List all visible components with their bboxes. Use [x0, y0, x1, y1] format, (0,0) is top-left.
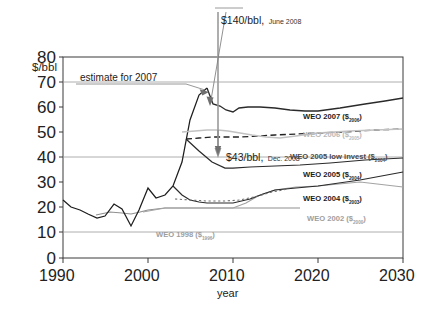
annotation-spike-43-value: $43/bbl,	[226, 151, 263, 163]
series-label-weo-2005-low-invest: WEO 2005 low invest ($2004)	[290, 153, 388, 163]
x-tick-2000: 2000	[124, 268, 160, 284]
series-label-weo-2002-text: WEO 2002 ($	[307, 214, 353, 223]
annotation-estimate-2007: estimate for 2007	[80, 73, 157, 83]
y-tick-60: 60	[30, 99, 56, 116]
series-label-weo-2002-sub: 2000	[353, 220, 363, 225]
series-label-weo-1998-sub: 1996	[202, 236, 212, 241]
series-label-weo-2005-end: )	[359, 170, 362, 179]
series-label-weo-2006-sub: 2005	[349, 136, 359, 141]
x-tick-2030: 2030	[379, 268, 415, 284]
x-tick-2020: 2020	[294, 268, 330, 284]
series-label-weo-2002-end: )	[363, 214, 366, 223]
y-tick-30: 30	[30, 174, 56, 191]
y-tick-0: 0	[30, 250, 56, 267]
series-label-weo-2005-low-invest-text: WEO 2005 low invest ($	[290, 152, 375, 161]
series-label-weo-2006-text: WEO 2006 ($	[303, 130, 349, 139]
annotation-spike-140-date: June 2008	[269, 18, 302, 25]
annotation-spike-140-value: $140/bbl,	[221, 14, 264, 26]
series-label-weo-2004: WEO 2004 ($2003)	[303, 195, 362, 205]
series-label-weo-2007: WEO 2007 ($2006)	[303, 113, 362, 123]
series-label-weo-2007-sub: 2006	[349, 118, 359, 123]
series-weo-2004	[173, 172, 403, 203]
x-tick-1990: 1990	[39, 268, 75, 284]
series-label-weo-2007-text: WEO 2007 ($	[303, 112, 349, 121]
y-tick-marks	[59, 57, 63, 258]
series-label-weo-2002: WEO 2002 ($2000)	[307, 215, 366, 225]
chart-figure: $/bbl 80 70 60 50 40 30 20 10 0 1990 200…	[0, 0, 427, 311]
series-label-weo-2005-text: WEO 2005 ($	[303, 170, 349, 179]
series-label-weo-2005-sub: 2004	[349, 176, 359, 181]
series-label-weo-2004-text: WEO 2004 ($	[303, 194, 349, 203]
annotation-spike-140-line	[215, 8, 243, 158]
y-tick-10: 10	[30, 224, 56, 241]
series-weo-1998	[96, 208, 300, 215]
series-label-weo-1998: WEO 1998 ($1996)	[156, 231, 215, 241]
series-label-weo-2005-low-invest-end: )	[385, 152, 388, 161]
series-label-weo-2006: WEO 2006 ($2005)	[303, 131, 362, 141]
series-label-weo-2007-end: )	[359, 112, 362, 121]
x-axis-title: year	[217, 288, 238, 299]
series-weo-2007	[207, 88, 403, 112]
series-label-weo-2004-sub: 2003	[349, 200, 359, 205]
annotation-estimate-leader	[76, 84, 209, 96]
x-tick-2010: 2010	[209, 268, 245, 284]
series-label-weo-2004-end: )	[359, 194, 362, 203]
y-tick-50: 50	[30, 124, 56, 141]
y-tick-20: 20	[30, 199, 56, 216]
series-label-weo-1998-end: )	[212, 230, 215, 239]
series-label-weo-2005: WEO 2005 ($2004)	[303, 171, 362, 181]
annotation-spike-43: $43/bbl, Dec. 2008	[226, 148, 300, 164]
y-tick-40: 40	[30, 149, 56, 166]
x-tick-marks	[63, 258, 403, 263]
series-label-weo-2005-low-invest-sub: 2004	[375, 158, 385, 163]
annotation-spike-140: $140/bbl, June 2008	[221, 11, 301, 27]
series-label-weo-2006-end: )	[359, 130, 362, 139]
y-tick-70: 70	[30, 74, 56, 91]
series-label-weo-1998-text: WEO 1998 ($	[156, 230, 202, 239]
y-tick-80: 80	[30, 49, 56, 66]
